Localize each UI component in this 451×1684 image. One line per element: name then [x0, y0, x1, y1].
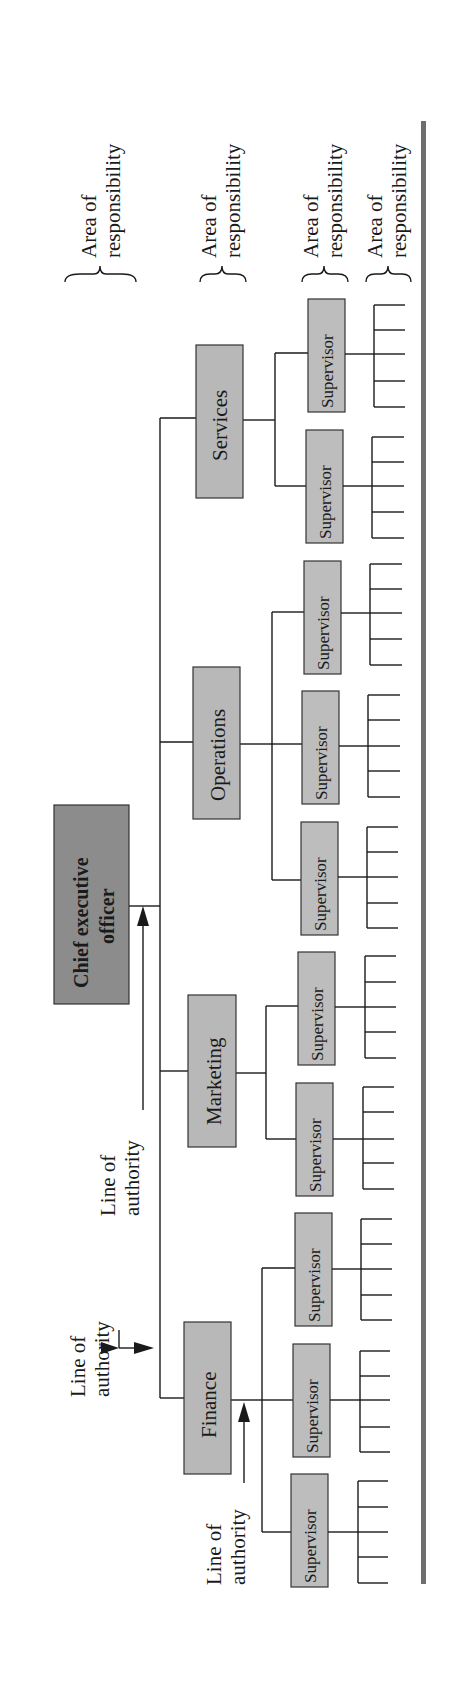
- dept-label: Operations: [206, 709, 230, 801]
- supervisor-operations-3[interactable]: Supervisor: [301, 822, 338, 935]
- supervisor-finance-1[interactable]: Supervisor: [295, 1213, 332, 1326]
- annotation-line1: Line of: [202, 1524, 226, 1585]
- annotation-line2: authority: [226, 1509, 250, 1585]
- supervisor-label: Supervisor: [306, 1118, 325, 1192]
- supervisor-finance-2[interactable]: Supervisor: [293, 1344, 330, 1457]
- area-of-responsibility-staff: Area of responsibility: [363, 143, 411, 282]
- dept-label: Finance: [197, 1372, 221, 1438]
- supervisor-label: Supervisor: [314, 596, 333, 670]
- staff-lines: [341, 564, 402, 665]
- org-chart: Area of responsibility Area of responsib…: [0, 0, 451, 1684]
- area-of-responsibility-ceo: Area of responsibility: [65, 143, 136, 282]
- brace-icon: [302, 266, 348, 282]
- arrow-up-icon: [137, 906, 149, 926]
- supervisor-operations-2[interactable]: Supervisor: [302, 691, 339, 804]
- supervisor-label: Supervisor: [312, 726, 331, 800]
- supervisor-label: Supervisor: [311, 857, 330, 931]
- brace-icon: [366, 266, 411, 282]
- supervisor-label: Supervisor: [301, 1509, 320, 1583]
- dept-finance[interactable]: Finance: [184, 1322, 231, 1474]
- staff-lines: [333, 1087, 394, 1189]
- dept-marketing[interactable]: Marketing: [188, 995, 236, 1147]
- staff-lines: [330, 1351, 390, 1452]
- area-of-responsibility-supervisor: Area of responsibility: [299, 143, 348, 282]
- area-label-line1: Area of: [299, 194, 323, 258]
- area-label-line2: responsibility: [387, 143, 411, 258]
- line-of-authority-finance: Line of authority: [66, 1321, 154, 1397]
- supervisor-label: Supervisor: [303, 1379, 322, 1453]
- dept-label: Services: [208, 390, 232, 461]
- brace-icon: [200, 266, 246, 282]
- supervisor-label: Supervisor: [308, 987, 327, 1061]
- supervisor-services-2[interactable]: Supervisor: [306, 430, 343, 543]
- ceo-label-line2: officer: [96, 888, 118, 944]
- supervisor-label: Supervisor: [305, 1248, 324, 1322]
- operations-connectors: [240, 612, 304, 880]
- area-label-line2: responsibility: [101, 143, 125, 258]
- staff-lines: [339, 695, 400, 797]
- supervisor-label: Supervisor: [318, 334, 337, 408]
- dept-services[interactable]: Services: [196, 345, 243, 498]
- staff-lines: [332, 1219, 392, 1320]
- ceo-connectors: [129, 418, 196, 1398]
- area-label-line2: responsibility: [221, 143, 245, 258]
- dept-label: Marketing: [202, 1037, 226, 1125]
- area-of-responsibility-department: Area of responsibility: [197, 143, 246, 282]
- arrow-up-icon: [238, 1402, 250, 1422]
- arrow-icon: [134, 1342, 154, 1354]
- page-edge-bar: [421, 121, 426, 1584]
- annotation-line2: authority: [120, 1140, 144, 1216]
- supervisor-marketing-2[interactable]: Supervisor: [296, 1083, 333, 1196]
- area-label-line1: Area of: [363, 194, 387, 258]
- annotation-line2: authority: [90, 1321, 114, 1397]
- dept-operations[interactable]: Operations: [193, 667, 240, 819]
- staff-lines: [343, 437, 404, 538]
- staff-lines: [328, 1481, 388, 1583]
- brace-icon: [65, 266, 136, 282]
- supervisor-finance-3[interactable]: Supervisor: [291, 1474, 328, 1587]
- area-label-line1: Area of: [197, 194, 221, 258]
- area-label-line1: Area of: [77, 194, 101, 258]
- ceo-box[interactable]: Chief executive officer: [54, 805, 129, 1004]
- staff-lines: [338, 827, 398, 928]
- area-label-line2: responsibility: [323, 143, 347, 258]
- staff-lines: [335, 956, 396, 1058]
- supervisor-services-1[interactable]: Supervisor: [308, 299, 345, 412]
- finance-connectors: [231, 1268, 295, 1532]
- services-connectors: [243, 353, 308, 486]
- staff-lines: [345, 305, 405, 407]
- ceo-label-line1: Chief executive: [70, 857, 92, 988]
- supervisor-label: Supervisor: [316, 465, 335, 539]
- annotation-line1: Line of: [96, 1155, 120, 1216]
- supervisor-marketing-1[interactable]: Supervisor: [298, 952, 335, 1065]
- supervisor-operations-1[interactable]: Supervisor: [304, 561, 341, 674]
- annotation-line1: Line of: [66, 1336, 90, 1397]
- marketing-connectors: [236, 1006, 298, 1139]
